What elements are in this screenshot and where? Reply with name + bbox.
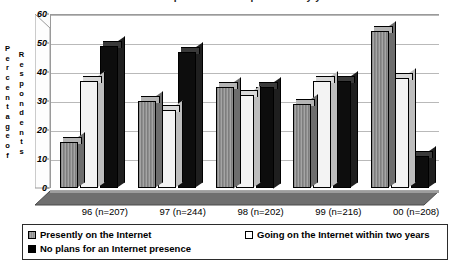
bar-gray[interactable] bbox=[293, 104, 311, 188]
y-title-respondents-char: s bbox=[17, 69, 26, 79]
x-axis-label: 99 (n=216) bbox=[315, 206, 361, 217]
bar-gray[interactable] bbox=[138, 101, 156, 188]
floor-shape bbox=[35, 187, 439, 206]
y-title-respondents-char: R bbox=[17, 50, 26, 60]
y-title-percentage-char: P bbox=[3, 44, 12, 54]
y-axis-tick-mark bbox=[46, 72, 49, 73]
y-title-percentage-char: e bbox=[3, 131, 12, 141]
y-title-percentage-char: f bbox=[3, 151, 12, 161]
legend-swatch-white-icon bbox=[245, 231, 253, 239]
chart-floor bbox=[35, 187, 439, 206]
bar-front-face bbox=[138, 101, 156, 188]
bar-gray[interactable] bbox=[216, 87, 234, 189]
y-title-respondents-char: p bbox=[17, 79, 26, 89]
bar-front-face bbox=[371, 31, 389, 188]
bar-side-face bbox=[408, 68, 416, 188]
bar-side-face bbox=[195, 42, 203, 188]
bar-group bbox=[128, 14, 206, 188]
bar-side-face bbox=[117, 36, 125, 188]
y-title-percentage-char: n bbox=[3, 93, 12, 103]
y-axis-tick-mark bbox=[46, 14, 49, 15]
y-title-respondents-char: e bbox=[17, 118, 26, 128]
chart-legend: Presently on the Internet Going on the I… bbox=[22, 224, 448, 260]
y-title-percentage-char: o bbox=[3, 141, 12, 151]
bar-side-face bbox=[233, 77, 241, 188]
y-title-respondents-char: e bbox=[17, 60, 26, 70]
bar-gray[interactable] bbox=[60, 142, 78, 188]
bar-side-face bbox=[175, 100, 183, 188]
y-title-respondents-char: n bbox=[17, 128, 26, 138]
y-title-respondents-char: n bbox=[17, 99, 26, 109]
bar-side-face bbox=[253, 85, 261, 187]
y-axis-tick-mark bbox=[46, 188, 49, 189]
legend-label: Going on the Internet within two years bbox=[257, 229, 430, 240]
bar-side-face bbox=[155, 91, 163, 188]
bar-side-face bbox=[388, 22, 396, 188]
x-axis-label: 98 (n=202) bbox=[237, 206, 283, 217]
y-axis-title-percentage: Percentageof bbox=[3, 44, 12, 160]
y-title-percentage-char: r bbox=[3, 63, 12, 73]
bar-gray[interactable] bbox=[371, 31, 389, 188]
bar-group bbox=[283, 14, 361, 188]
y-axis-tick-mark bbox=[46, 43, 49, 44]
x-axis-label: 97 (n=244) bbox=[160, 206, 206, 217]
bar-group bbox=[361, 14, 439, 188]
chart-title-clipped: Internet presence of respondents by year bbox=[0, 0, 469, 3]
plot-area: 0102030405060 bbox=[35, 14, 439, 206]
y-axis-title-respondents: Respondents bbox=[17, 50, 26, 157]
bar-front-face bbox=[293, 104, 311, 188]
y-title-percentage-char: t bbox=[3, 102, 12, 112]
bar-group bbox=[206, 14, 284, 188]
legend-label: No plans for an Internet presence bbox=[40, 243, 191, 254]
y-title-percentage-char: g bbox=[3, 122, 12, 132]
legend-swatch-gray-icon bbox=[28, 231, 36, 239]
bar-side-face bbox=[330, 71, 338, 188]
bar-front-face bbox=[60, 142, 78, 188]
bar-side-face bbox=[273, 77, 281, 188]
legend-item-no-plans[interactable]: No plans for an Internet presence bbox=[28, 243, 191, 254]
y-title-respondents-char: o bbox=[17, 89, 26, 99]
y-axis-tick-mark bbox=[46, 101, 49, 102]
y-title-respondents-char: s bbox=[17, 147, 26, 157]
y-axis-tick-mark bbox=[46, 159, 49, 160]
legend-label: Presently on the Internet bbox=[40, 229, 151, 240]
x-axis-labels: 96 (n=207)97 (n=244)98 (n=202)99 (n=216)… bbox=[35, 206, 439, 220]
y-title-respondents-char: d bbox=[17, 108, 26, 118]
bar-front-face bbox=[216, 87, 234, 189]
y-title-percentage-char: a bbox=[3, 112, 12, 122]
y-title-percentage-char: e bbox=[3, 54, 12, 64]
bar-group bbox=[50, 14, 128, 188]
legend-item-going-on[interactable]: Going on the Internet within two years bbox=[245, 229, 430, 240]
x-axis-label: 00 (n=208) bbox=[393, 206, 439, 217]
bar-side-face bbox=[310, 94, 318, 188]
chart-root: Internet presence of respondents by year… bbox=[0, 0, 469, 265]
bar-side-face bbox=[97, 71, 105, 188]
x-axis-label: 96 (n=207) bbox=[82, 206, 128, 217]
legend-item-presently[interactable]: Presently on the Internet bbox=[28, 229, 151, 240]
bar-side-face bbox=[350, 71, 358, 188]
y-title-respondents-char: t bbox=[17, 137, 26, 147]
y-title-percentage-char: e bbox=[3, 83, 12, 93]
legend-swatch-black-icon bbox=[28, 245, 36, 253]
bar-series-container bbox=[50, 14, 439, 188]
y-title-percentage-char: c bbox=[3, 73, 12, 83]
y-axis-tick-mark bbox=[46, 130, 49, 131]
